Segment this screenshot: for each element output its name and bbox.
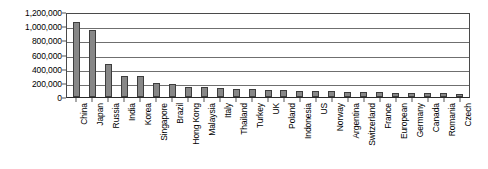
bar: [169, 84, 176, 97]
bar: [360, 92, 367, 97]
bar-slot: [180, 14, 196, 97]
bar: [73, 22, 80, 97]
bar: [137, 76, 144, 97]
x-axis-label-slot: US: [308, 102, 324, 168]
bar-slot: [308, 14, 324, 97]
bar: [233, 89, 240, 98]
bar-slot: [149, 14, 165, 97]
bar-slot: [387, 14, 403, 97]
x-axis-label-slot: European: [388, 102, 404, 168]
x-axis-label-slot: China: [68, 102, 84, 168]
bar-chart-figure: 1,200,0001,000,000800,000600,000400,0002…: [0, 0, 488, 169]
bar: [328, 91, 335, 97]
x-axis-label-slot: Turkey: [244, 102, 260, 168]
bar-slot: [340, 14, 356, 97]
x-axis-label-slot: Hong Kong: [180, 102, 196, 168]
bar: [408, 93, 415, 97]
x-axis-label-slot: Poland: [276, 102, 292, 168]
x-axis-label-slot: Singapore: [148, 102, 164, 168]
x-axis-label-slot: France: [372, 102, 388, 168]
bar-slot: [260, 14, 276, 97]
bar-slot: [276, 14, 292, 97]
x-axis-label-slot: Italy: [212, 102, 228, 168]
bar-slot: [324, 14, 340, 97]
bar: [376, 92, 383, 97]
bar-slot: [419, 14, 435, 97]
x-axis-label-slot: Canada: [420, 102, 436, 168]
bar: [249, 89, 256, 97]
bar: [280, 90, 287, 97]
bar: [201, 87, 208, 97]
x-axis-category-label: Czech: [464, 103, 473, 127]
x-axis-label-slot: Japan: [84, 102, 100, 168]
x-axis-label-slot: Switzerland: [356, 102, 372, 168]
y-axis: 1,200,0001,000,000800,000600,000400,0002…: [0, 0, 62, 110]
y-axis-tick-label: 400,000: [32, 66, 62, 74]
bar-slot: [292, 14, 308, 97]
bar: [456, 94, 463, 97]
bar-slot: [372, 14, 388, 97]
bar-slot: [101, 14, 117, 97]
bar-slot: [165, 14, 181, 97]
bar: [153, 83, 160, 97]
bar-series: [67, 14, 469, 97]
bar-slot: [356, 14, 372, 97]
bar: [344, 92, 351, 97]
y-axis-tick-label: 1,000,000: [25, 23, 62, 31]
bar-slot: [196, 14, 212, 97]
x-axis-label-slot: Russia: [100, 102, 116, 168]
x-axis-label-slot: Thailand: [228, 102, 244, 168]
x-axis-label-slot: Romania: [436, 102, 452, 168]
x-axis-label-slot: Czech: [452, 102, 468, 168]
bar-slot: [133, 14, 149, 97]
bar: [440, 93, 447, 97]
bar-slot: [212, 14, 228, 97]
x-axis-category-labels: ChinaJapanRussiaIndiaKoreaSingaporeBrazi…: [66, 102, 470, 168]
x-axis-label-slot: Malaysia: [196, 102, 212, 168]
bar-slot: [85, 14, 101, 97]
bar-slot: [117, 14, 133, 97]
bar-slot: [244, 14, 260, 97]
x-axis-label-slot: Norway: [324, 102, 340, 168]
bar: [265, 90, 272, 97]
x-axis-label-slot: Brazil: [164, 102, 180, 168]
bar: [185, 87, 192, 97]
x-axis-label-slot: Indonesia: [292, 102, 308, 168]
x-axis-label-slot: India: [116, 102, 132, 168]
bar: [392, 93, 399, 97]
bar: [296, 91, 303, 97]
y-axis-tick-label: 1,200,000: [25, 9, 62, 17]
y-axis-tick-label: 600,000: [32, 52, 62, 60]
bar: [312, 91, 319, 97]
x-axis-label-slot: Korea: [132, 102, 148, 168]
x-axis-label-slot: Germany: [404, 102, 420, 168]
plot-area: [66, 13, 470, 98]
bar-slot: [403, 14, 419, 97]
bar-slot: [69, 14, 85, 97]
bar: [105, 64, 112, 97]
bar-slot: [228, 14, 244, 97]
bar: [424, 93, 431, 97]
bar: [217, 88, 224, 97]
bar: [89, 30, 96, 97]
bar-slot: [451, 14, 467, 97]
x-axis-label-slot: Argentina: [340, 102, 356, 168]
y-axis-tick-label: 800,000: [32, 37, 62, 45]
bar: [121, 76, 128, 97]
bar-slot: [435, 14, 451, 97]
y-axis-tick-label: 200,000: [32, 80, 62, 88]
x-axis-label-slot: UK: [260, 102, 276, 168]
